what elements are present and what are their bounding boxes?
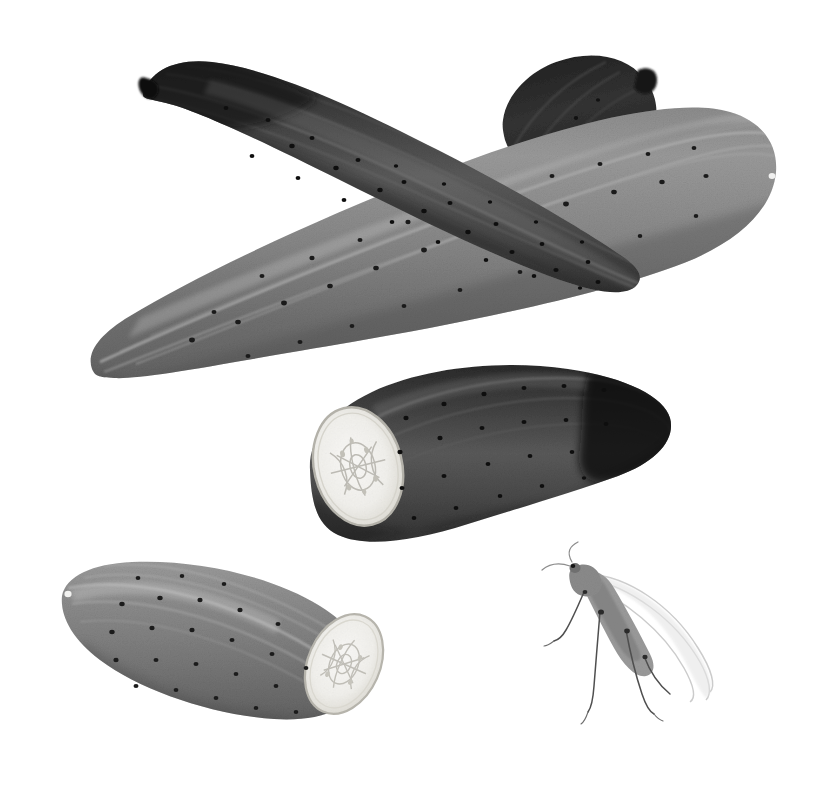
botanical-plate (0, 0, 832, 799)
blossom-scar (769, 173, 776, 179)
blossom-scar (64, 591, 71, 597)
head (570, 563, 581, 573)
illustration-canvas (0, 0, 832, 799)
eye (571, 564, 576, 568)
